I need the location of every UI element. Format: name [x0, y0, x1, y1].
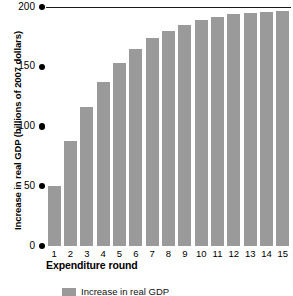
- x-tick-label-8: 8: [160, 248, 176, 259]
- x-tick-label-2: 2: [62, 248, 78, 259]
- x-tick-label-13: 13: [242, 248, 258, 259]
- x-tick-label-12: 12: [226, 248, 242, 259]
- bar-round-15: [276, 11, 289, 246]
- legend-swatch-icon: [62, 288, 76, 296]
- bar-round-4: [97, 82, 110, 246]
- x-tick-label-11: 11: [209, 248, 225, 259]
- y-tick-dot-icon: [39, 64, 45, 70]
- bar-round-5: [113, 63, 126, 246]
- bar-round-14: [260, 12, 273, 246]
- bar-round-10: [195, 20, 208, 246]
- y-tick-dot-icon: [39, 243, 45, 249]
- y-tick-dot-icon: [39, 123, 45, 129]
- bar-round-7: [146, 38, 159, 246]
- y-tick-label: 200: [18, 1, 35, 12]
- x-tick-label-4: 4: [95, 248, 111, 259]
- x-tick-label-6: 6: [128, 248, 144, 259]
- chart-legend: Increase in real GDP: [62, 286, 169, 296]
- bar-round-3: [80, 107, 93, 246]
- x-tick-label-14: 14: [258, 248, 274, 259]
- legend-label: Increase in real GDP: [81, 286, 169, 296]
- reference-line-200: [46, 7, 291, 8]
- bar-round-12: [227, 14, 240, 246]
- plot-area: 123456789101112131415: [46, 7, 291, 246]
- bar-round-1: [48, 186, 61, 246]
- bar-round-9: [178, 25, 191, 246]
- bar-round-2: [64, 141, 77, 246]
- y-tick-dot-icon: [39, 4, 45, 10]
- bar-round-6: [129, 49, 142, 246]
- x-tick-label-7: 7: [144, 248, 160, 259]
- bar-round-13: [244, 13, 257, 246]
- y-tick-label: 100: [18, 120, 35, 131]
- x-tick-label-3: 3: [79, 248, 95, 259]
- bar-round-11: [211, 17, 224, 246]
- y-tick-label: 150: [18, 60, 35, 71]
- chart-figure: Increase in real GDP (billions of 2007 d…: [0, 0, 293, 296]
- x-axis-title: Expenditure round: [46, 259, 291, 271]
- x-tick-label-9: 9: [177, 248, 193, 259]
- y-tick-label: 0: [29, 240, 35, 251]
- x-tick-label-5: 5: [111, 248, 127, 259]
- y-tick-label: 50: [24, 180, 35, 191]
- x-tick-label-15: 15: [275, 248, 291, 259]
- x-tick-label-10: 10: [193, 248, 209, 259]
- bar-round-8: [162, 31, 175, 246]
- y-tick-dot-icon: [39, 183, 45, 189]
- x-tick-label-1: 1: [46, 248, 62, 259]
